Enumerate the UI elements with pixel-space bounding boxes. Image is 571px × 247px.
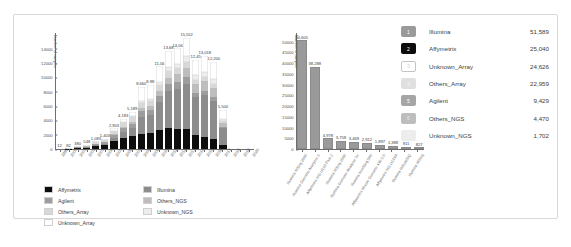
- left-bar-stack: [129, 112, 136, 149]
- mid-bar-column[interactable]: 1,897: [375, 33, 385, 149]
- left-chart-legend: AffymetrixIlluminaAgilentOthers_NGSOther…: [44, 184, 234, 228]
- left-bar-segment-illumina: [210, 101, 217, 140]
- legend-label: Others_NGS: [157, 198, 187, 204]
- mid-bar-column[interactable]: 50,605: [297, 33, 307, 149]
- left-bar-column[interactable]: 2,903: [110, 33, 117, 149]
- table-row[interactable]: 1Illumina51,589: [401, 23, 549, 40]
- left-x-label-slot: 2017: [219, 151, 226, 177]
- left-x-label-slot: 2007: [129, 151, 136, 177]
- mid-bar-column[interactable]: 4,978: [323, 33, 333, 149]
- table-row[interactable]: 5Agilent9,429: [401, 92, 549, 109]
- left-x-tick-labels: 1999200020012002200320042005200620072008…: [56, 151, 254, 177]
- left-x-label-slot: 2006: [120, 151, 127, 177]
- left-x-label-slot: 2000: [65, 151, 72, 177]
- left-bar-value-label: 8,660: [136, 81, 146, 86]
- left-x-label-slot: 2013: [183, 151, 190, 177]
- platform-name: Illumina: [416, 28, 530, 35]
- left-bar-value-label: 5,189: [127, 106, 137, 111]
- mid-bar-column[interactable]: 3,469: [349, 33, 359, 149]
- left-x-label-slot: 2005: [110, 151, 117, 177]
- legend-swatch: [44, 197, 53, 205]
- legend-label: Unknown_Array: [58, 220, 95, 226]
- mid-bar: [297, 40, 307, 149]
- left-bar-segment-affymetrix: [156, 130, 163, 149]
- left-bar-column[interactable]: 8,98: [147, 33, 154, 149]
- mid-bar-column[interactable]: 3,758: [336, 33, 346, 149]
- legend-item-agilent[interactable]: Agilent: [44, 197, 135, 205]
- left-bar-value-label: 8,98: [146, 79, 154, 84]
- legend-item-unknown_array[interactable]: Unknown_Array: [44, 219, 135, 227]
- left-bar-column[interactable]: 11,56: [156, 33, 163, 149]
- figure-panel: Number of samples 1400012000100008000600…: [13, 14, 558, 219]
- left-bar-stack: [156, 66, 163, 149]
- legend-item-unknown_ngs[interactable]: Unknown_NGS: [143, 208, 234, 216]
- left-bar-segment-unknown_array: [138, 87, 145, 101]
- left-bar-stack: [201, 56, 208, 149]
- left-y-tick: 2000: [43, 132, 55, 137]
- legend-item-others_array[interactable]: Others_Array: [44, 208, 135, 216]
- table-row[interactable]: 3Unknown_Array24,626: [401, 58, 549, 75]
- left-bar-column[interactable]: 13,018: [201, 33, 208, 149]
- left-bar-column[interactable]: 5,189: [129, 33, 136, 149]
- left-bar-stack: [120, 119, 127, 149]
- left-bar-column[interactable]: 12,200: [210, 33, 217, 149]
- left-bar-segment-unknown_array: [183, 38, 190, 56]
- table-row[interactable]: 4Others_Array22,959: [401, 75, 549, 92]
- left-bar-column[interactable]: 5,500: [219, 33, 226, 149]
- left-bar-column[interactable]: 4,183: [120, 33, 127, 149]
- left-bar-stack: [219, 110, 226, 149]
- legend-swatch: [143, 208, 152, 216]
- left-bar-segment-illumina: [138, 117, 145, 134]
- left-x-tick-label: 2020: [251, 153, 256, 158]
- platform-name: Agilent: [416, 97, 534, 104]
- mid-bar: [336, 141, 346, 149]
- platform-name: Others_Array: [416, 80, 530, 87]
- left-bar-segment-others_ngs: [174, 74, 181, 82]
- left-bar-column[interactable]: 548: [83, 33, 90, 149]
- left-y-tick: 6000: [43, 104, 55, 109]
- left-bar-segment-illumina: [183, 84, 190, 130]
- mid-bar-column[interactable]: 2,912: [362, 33, 372, 149]
- left-bar-column[interactable]: 1,083: [92, 33, 99, 149]
- left-bar-column[interactable]: 12: [56, 33, 63, 149]
- yearly-stacked-bar-chart: Number of samples 1400012000100008000600…: [22, 19, 262, 179]
- left-x-label-slot: 2015: [201, 151, 208, 177]
- left-x-label-slot: 2012: [174, 151, 181, 177]
- mid-bar-column[interactable]: 38,288: [310, 33, 320, 149]
- legend-item-affymetrix[interactable]: Affymetrix: [44, 186, 135, 194]
- table-row[interactable]: 7Unknown_NGS1,702: [401, 127, 549, 144]
- left-bar-column[interactable]: 14,06: [174, 33, 181, 149]
- left-x-label-slot: 2008: [138, 151, 145, 177]
- mid-bar-column[interactable]: 1,388: [388, 33, 398, 149]
- left-bar-segment-illumina: [219, 128, 226, 145]
- mid-bar-value-label: 38,288: [309, 61, 322, 66]
- left-bar-segment-unknown_array: [147, 85, 154, 100]
- left-bar-segment-affymetrix: [192, 135, 199, 149]
- left-bar-column[interactable]: 82: [65, 33, 72, 149]
- left-bar-column[interactable]: 8,660: [138, 33, 145, 149]
- left-bar-column[interactable]: 13,68: [165, 33, 172, 149]
- left-bar-column[interactable]: 380: [74, 33, 81, 149]
- left-bar-column[interactable]: [228, 33, 235, 149]
- left-x-label-slot: 2002: [83, 151, 90, 177]
- left-bar-value-label: 82: [66, 143, 71, 148]
- legend-item-illumina[interactable]: Illumina: [143, 186, 234, 194]
- left-x-label-slot: 2003: [92, 151, 99, 177]
- platform-name: Affymetrix: [416, 45, 530, 52]
- table-row[interactable]: 2Affymetrix25,040: [401, 40, 549, 57]
- left-bar-column[interactable]: 15,552: [183, 33, 190, 149]
- platform-summary-table: 1Illumina51,5892Affymetrix25,0403Unknown…: [401, 23, 549, 144]
- left-bar-column[interactable]: 1,403: [101, 33, 108, 149]
- left-bar-stack: [192, 60, 199, 149]
- mid-x-tick-labels: Illumina HiSeq 2000Illumina Genome Analy…: [297, 151, 424, 181]
- table-row[interactable]: 6Others_NGS4,470: [401, 109, 549, 126]
- left-bar-column[interactable]: [238, 33, 245, 149]
- legend-item-others_ngs[interactable]: Others_NGS: [143, 197, 234, 205]
- mid-bar-value-label: 50,605: [296, 35, 309, 40]
- mid-y-tick: 5000: [284, 136, 296, 141]
- left-bar-column[interactable]: [247, 33, 254, 149]
- left-x-label-slot: 2014: [192, 151, 199, 177]
- mid-bar: [349, 142, 359, 149]
- platform-sample-count: 25,040: [530, 45, 549, 52]
- mid-bar-value-label: 2,912: [362, 137, 372, 142]
